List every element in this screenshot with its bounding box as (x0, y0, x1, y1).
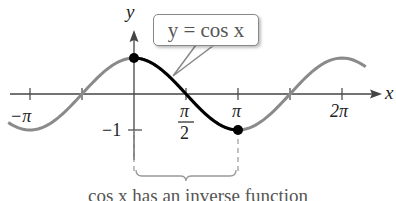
domain-brace (136, 170, 236, 181)
tick-label-pi-over-2-den: 2 (180, 123, 189, 143)
callout-label: y = cos x (153, 14, 259, 46)
caption: cos x has an inverse function (0, 185, 396, 201)
point-pi-neg1 (233, 125, 243, 135)
tick-label-2pi: 2π (330, 101, 349, 121)
point-0-1 (129, 53, 139, 63)
tick-label-neg-pi: −π (10, 106, 32, 126)
tick-label-neg-1: −1 (102, 120, 121, 140)
x-axis-label: x (384, 82, 394, 103)
tick-label-pi-over-2-num: π (180, 101, 190, 121)
y-axis-label: y (124, 1, 135, 22)
tick-label-pi: π (232, 101, 242, 121)
callout-pointer (173, 45, 214, 76)
